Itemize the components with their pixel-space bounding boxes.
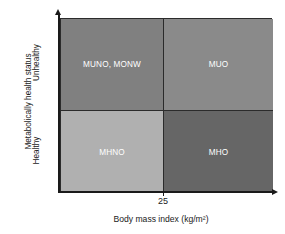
x-axis-line	[58, 191, 273, 193]
quadrant-label-mho: MHO	[209, 148, 229, 157]
y-axis-tick-label-unhealthy: Unhealthy	[32, 23, 41, 103]
quadrant-bottom-right-mho: MHO	[164, 111, 273, 193]
plot-area: MUNO, MONW MUO MHNO MHO	[60, 18, 272, 192]
quadrant-label-muo: MUO	[209, 60, 229, 69]
y-axis-line	[58, 14, 60, 193]
quadrant-top-right-muo: MUO	[164, 19, 273, 111]
x-axis-arrow-icon	[272, 189, 278, 195]
y-axis-tick-label-healthy: Healthy	[32, 115, 41, 187]
y-axis-arrow-icon	[55, 9, 61, 15]
quadrant-label-mhno: MHNO	[99, 148, 125, 157]
metabolic-health-bmi-quadrant-chart: MUNO, MONW MUO MHNO MHO 25 Body mass ind…	[0, 0, 285, 234]
x-axis-title: Body mass index (kg/m²)	[46, 214, 276, 224]
quadrant-label-muno-monw: MUNO, MONW	[83, 60, 141, 69]
quadrant-top-left-muno-monw: MUNO, MONW	[61, 19, 164, 111]
x-axis-tick-label-25: 25	[143, 196, 183, 206]
quadrant-bottom-left-mhno: MHNO	[61, 111, 164, 193]
